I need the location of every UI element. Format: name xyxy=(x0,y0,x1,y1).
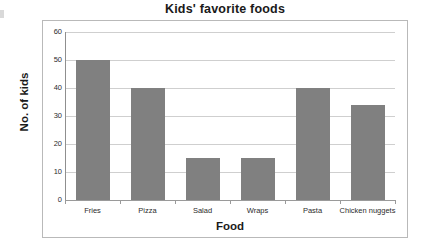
x-tick-label: Pizza xyxy=(117,206,179,216)
x-tick-mark xyxy=(285,200,286,204)
x-tick-mark xyxy=(230,200,231,204)
gridline xyxy=(65,116,395,117)
y-tick-label: 60 xyxy=(40,28,62,36)
gridline xyxy=(65,172,395,173)
x-tick-label: Pasta xyxy=(282,206,344,216)
plot-area xyxy=(65,32,395,200)
scan-artifact xyxy=(0,10,4,18)
y-tick-label: 50 xyxy=(40,56,62,64)
bar xyxy=(186,158,220,200)
x-tick-mark xyxy=(395,200,396,204)
y-tick-label: 0 xyxy=(40,196,62,204)
bar xyxy=(351,105,385,200)
x-tick-mark xyxy=(340,200,341,204)
x-tick-label: Salad xyxy=(172,206,234,216)
gridline xyxy=(65,32,395,33)
y-tick-label: 40 xyxy=(40,84,62,92)
x-tick-mark xyxy=(120,200,121,204)
bar xyxy=(241,158,275,200)
bar-chart-figure: Kids' favorite foods No. of kids 6050403… xyxy=(0,0,423,252)
x-tick-label: Fries xyxy=(62,206,124,216)
chart-title: Kids' favorite foods xyxy=(42,2,408,16)
x-tick-mark xyxy=(65,200,66,204)
gridline xyxy=(65,88,395,89)
x-axis-title: Food xyxy=(65,220,395,232)
gridline xyxy=(65,144,395,145)
x-tick-mark xyxy=(175,200,176,204)
y-axis-title: No. of kids xyxy=(18,62,30,142)
bar xyxy=(131,88,165,200)
bar xyxy=(296,88,330,200)
y-tick-label: 20 xyxy=(40,140,62,148)
y-tick-label: 10 xyxy=(40,168,62,176)
x-axis-ticks xyxy=(65,200,396,205)
y-axis-line xyxy=(65,32,66,201)
bar xyxy=(76,60,110,200)
y-tick-label: 30 xyxy=(40,112,62,120)
x-tick-label: Chicken nuggets xyxy=(337,206,399,216)
y-axis-tick-labels: 6050403020100 xyxy=(40,32,62,200)
x-tick-label: Wraps xyxy=(227,206,289,216)
gridline xyxy=(65,60,395,61)
